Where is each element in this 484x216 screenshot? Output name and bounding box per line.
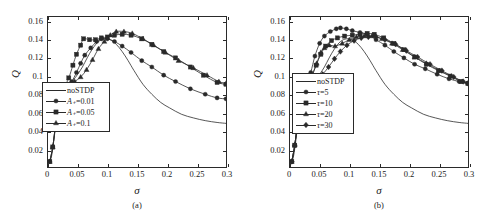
y-tick-label: 0.16 [251,17,285,26]
y-tick-label: 0.04 [9,127,43,136]
y-tick [48,40,51,41]
y-tick [290,40,293,41]
y-axis-tick-labels-a: 0.020.040.060.080.10.120.140.16 [5,16,43,168]
legend-label: noSTDP [67,86,95,95]
x-tick [168,164,169,167]
y-tick-label: 0.08 [9,90,43,99]
panel-caption-b: (b) [289,200,469,210]
y-tick-label: 0.04 [251,127,285,136]
x-tick [350,17,351,20]
legend-item: A₊=0.01 [45,96,106,107]
x-tick-label: 0.25 [190,170,205,179]
x-tick [78,17,79,20]
x-tick-label: 0.1 [102,170,113,179]
y-axis-tick-labels-b: 0.020.040.060.080.10.120.140.16 [247,16,285,168]
x-tick [470,17,471,20]
x-tick [320,164,321,167]
legend-marker-icon [45,118,67,129]
x-tick-label: 0.05 [70,170,85,179]
legend-item: noSTDP [45,85,106,96]
legend-item: τ=30 [295,120,350,131]
legend-label: A₊=0.05 [67,108,94,117]
x-tick-label: 0.2 [404,170,415,179]
y-tick [465,58,468,59]
y-tick-label: 0.02 [251,146,285,155]
legend-marker-icon [45,107,67,118]
y-tick-label: 0.12 [251,53,285,62]
x-tick [320,17,321,20]
x-tick [228,17,229,20]
legend-marker-icon [295,76,317,87]
x-tick [440,164,441,167]
y-tick-label: 0.02 [9,146,43,155]
y-tick [48,132,51,133]
legend-b: noSTDPτ=5τ=10τ=20τ=30 [292,73,354,134]
legend-marker-icon [295,120,317,131]
x-tick-label: 0 [287,170,291,179]
x-tick [350,164,351,167]
x-tick [78,164,79,167]
x-tick [198,164,199,167]
y-tick-label: 0.16 [9,17,43,26]
panel-a: 0.020.040.060.080.10.120.140.16 Q 00.050… [0,0,242,216]
x-tick-label: 0 [45,170,49,179]
y-tick [223,114,226,115]
x-tick [198,17,199,20]
x-tick [410,164,411,167]
legend-item: noSTDP [295,76,350,87]
x-axis-title-a: σ [47,184,227,196]
x-axis-tick-labels-a: 00.050.10.150.20.250.3 [47,170,227,184]
x-axis-title-b: σ [289,184,469,196]
y-tick [223,58,226,59]
x-tick [380,17,381,20]
legend-marker-icon [45,85,67,96]
y-tick [465,95,468,96]
y-tick [223,77,226,78]
legend-marker-icon [45,96,67,107]
y-tick-label: 0.12 [9,53,43,62]
y-tick [290,22,293,23]
legend-label: τ=30 [317,121,332,130]
x-tick [290,17,291,20]
x-tick [290,164,291,167]
x-tick-label: 0.3 [222,170,233,179]
legend-marker-icon [295,109,317,120]
y-tick [48,151,51,152]
x-tick [138,17,139,20]
y-tick [465,22,468,23]
x-tick-label: 0.1 [344,170,355,179]
legend-label: A₊=0.01 [67,97,94,106]
x-tick-label: 0.2 [162,170,173,179]
y-tick-label: 0.06 [9,109,43,118]
y-tick [223,40,226,41]
x-tick-label: 0.15 [130,170,145,179]
figure-two-panel-line-charts: 0.020.040.060.080.10.120.140.16 Q 00.050… [0,0,484,216]
legend-label: τ=5 [317,88,328,97]
y-tick-label: 0.14 [251,35,285,44]
x-tick-label: 0.05 [312,170,327,179]
x-tick [168,17,169,20]
y-tick [223,132,226,133]
y-tick [223,22,226,23]
y-tick [465,151,468,152]
x-tick-label: 0.3 [464,170,475,179]
y-tick [465,114,468,115]
x-tick [380,164,381,167]
y-tick [48,22,51,23]
legend-label: noSTDP [317,77,345,86]
x-tick [410,17,411,20]
y-tick [465,77,468,78]
x-axis-tick-labels-b: 00.050.10.150.20.250.3 [289,170,469,184]
y-tick [465,40,468,41]
x-tick [138,164,139,167]
y-tick [48,58,51,59]
panel-b: 0.020.040.060.080.10.120.140.16 Q 00.050… [242,0,484,216]
x-tick [48,164,49,167]
y-tick [48,77,51,78]
legend-item: τ=20 [295,109,350,120]
legend-label: A₊=0.1 [67,119,90,128]
legend-item: A₊=0.05 [45,107,106,118]
x-tick [470,164,471,167]
panel-caption-a: (a) [47,200,227,210]
y-tick [290,151,293,152]
